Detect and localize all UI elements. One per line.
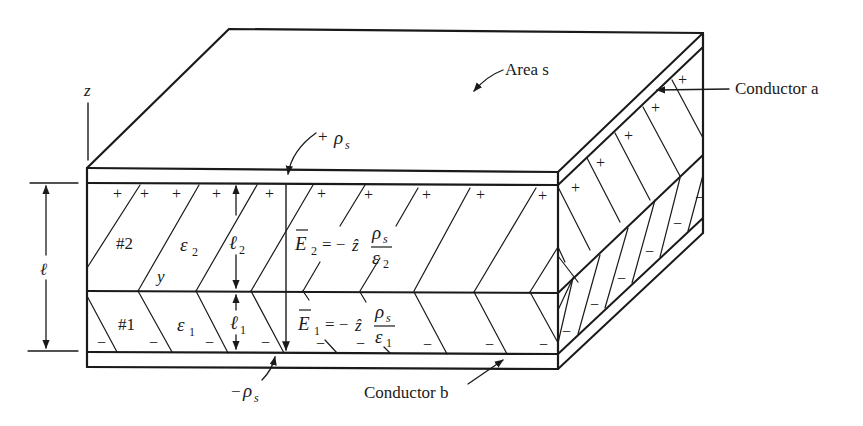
svg-text:1: 1 xyxy=(314,324,320,338)
z-axis-label: z xyxy=(83,81,91,100)
svg-text:2: 2 xyxy=(311,244,317,258)
svg-text:−: − xyxy=(231,382,241,401)
svg-text:+: + xyxy=(318,127,328,146)
svg-text:+: + xyxy=(596,154,605,171)
conductor-b-label: Conductor b xyxy=(364,383,449,402)
svg-text:s: s xyxy=(383,232,388,246)
leader-arrows xyxy=(262,70,729,384)
svg-text:−: − xyxy=(485,336,494,353)
epsilon2: ε xyxy=(180,234,188,255)
area-label: Area s xyxy=(505,60,549,79)
right-face-upper-field-lines xyxy=(558,80,703,262)
epsilon1: ε xyxy=(177,314,185,335)
total-thickness-label: ℓ xyxy=(40,260,47,279)
l2-label: ℓ xyxy=(229,232,237,253)
layer2-labels: #2 ε 2 ℓ 2 y E 2 = − ẑ ρ s ε 2 xyxy=(116,222,392,286)
minus-rho-s-label: − ρ s xyxy=(231,380,259,405)
svg-text:−: − xyxy=(590,296,599,313)
svg-text:−: − xyxy=(356,335,365,352)
svg-text:−: − xyxy=(205,334,214,351)
svg-text:−: − xyxy=(423,336,432,353)
svg-text:+: + xyxy=(651,99,660,116)
svg-text:−: − xyxy=(562,323,571,340)
svg-text:1: 1 xyxy=(386,336,392,350)
layer1-name: #1 xyxy=(118,315,135,334)
svg-text:s: s xyxy=(345,138,350,152)
svg-text:+: + xyxy=(678,71,687,88)
top-face xyxy=(87,29,703,168)
plus-rho-leader xyxy=(288,133,316,174)
thickness-dimension xyxy=(28,183,78,351)
svg-text:2: 2 xyxy=(192,245,198,259)
y-axis-label: y xyxy=(155,267,165,286)
svg-text:−: − xyxy=(673,215,682,232)
svg-text:ρ: ρ xyxy=(333,127,343,148)
conductor-a-leader xyxy=(657,89,729,90)
svg-text:ρ: ρ xyxy=(242,380,252,401)
svg-text:+: + xyxy=(140,185,149,202)
svg-text:s: s xyxy=(254,391,259,405)
svg-text:+: + xyxy=(212,185,221,202)
svg-text:+: + xyxy=(172,185,181,202)
negative-charges-front: − − − − − − − − − xyxy=(97,334,548,353)
svg-text:+: + xyxy=(476,186,485,203)
svg-text:−: − xyxy=(617,270,626,287)
svg-text:ε: ε xyxy=(372,247,380,268)
svg-text:= −: = − xyxy=(325,315,348,334)
svg-text:ẑ: ẑ xyxy=(354,316,362,335)
svg-text:2: 2 xyxy=(239,243,245,257)
right-face-lower-field-lines xyxy=(558,175,703,343)
svg-text:−: − xyxy=(261,334,270,351)
conductor-b-leader xyxy=(468,360,503,384)
svg-text:+: + xyxy=(265,185,274,202)
svg-text:+: + xyxy=(113,185,122,202)
plus-rho-s-label: + ρ s xyxy=(318,127,350,152)
conductor-a-label: Conductor a xyxy=(735,79,819,98)
svg-text:1: 1 xyxy=(189,325,195,339)
layer1-labels: #1 ε 1 ℓ 1 E 1 = − ẑ ρ s ε 1 xyxy=(118,301,395,350)
svg-text:−: − xyxy=(645,243,654,260)
conductor-a-plate xyxy=(87,33,703,185)
svg-text:ε: ε xyxy=(375,326,383,347)
svg-text:−: − xyxy=(695,189,704,206)
capacitor-diagram: + + + + + + + + + + + + + + + − − − − − … xyxy=(0,0,863,426)
svg-text:+: + xyxy=(571,179,580,196)
svg-text:+: + xyxy=(624,127,633,144)
area-leader xyxy=(474,70,503,91)
svg-text:ρ: ρ xyxy=(371,222,381,243)
svg-text:ẑ: ẑ xyxy=(351,236,359,255)
svg-text:−: − xyxy=(97,334,106,351)
svg-text:= −: = − xyxy=(322,235,345,254)
svg-text:+: + xyxy=(538,187,547,204)
e2-field: E xyxy=(294,233,307,254)
svg-text:s: s xyxy=(386,311,391,325)
layer2-name: #2 xyxy=(116,234,133,253)
svg-text:−: − xyxy=(539,336,548,353)
svg-text:1: 1 xyxy=(240,323,246,337)
svg-text:2: 2 xyxy=(383,257,389,271)
negative-charges-side: − − − − − − xyxy=(562,189,704,340)
svg-text:−: − xyxy=(149,334,158,351)
positive-charges-front: + + + + + + + + + + xyxy=(113,185,547,204)
svg-text:+: + xyxy=(422,186,431,203)
svg-text:ρ: ρ xyxy=(374,301,384,322)
svg-text:+: + xyxy=(317,185,326,202)
e1-field: E xyxy=(297,313,310,334)
svg-text:+: + xyxy=(364,186,373,203)
l1-label: ℓ xyxy=(230,312,238,333)
